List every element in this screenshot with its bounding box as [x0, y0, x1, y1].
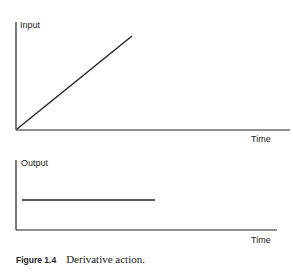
- figure-number: Figure 1.4: [16, 255, 56, 265]
- input-ramp-line: [17, 36, 132, 129]
- input-time-label: Time: [251, 135, 271, 144]
- figure-caption: Figure 1.4Derivative action.: [16, 250, 145, 266]
- output-plot: [16, 160, 277, 230]
- output-time-label: Time: [251, 236, 271, 245]
- input-plot: [16, 22, 290, 130]
- input-axis-label: Input: [20, 21, 40, 30]
- output-axis-label: Output: [21, 159, 48, 168]
- figure-caption-text: Derivative action.: [66, 253, 145, 265]
- figure-plots: [0, 0, 293, 276]
